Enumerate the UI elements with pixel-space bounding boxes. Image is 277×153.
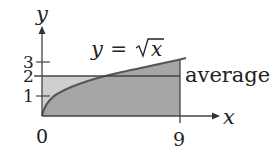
sqrt-average-chart: y x 3 2 1 0 9 y = x average [0,0,277,153]
function-label: y = x [90,37,164,61]
function-label-x: x [151,37,162,61]
function-label-y: y [90,37,104,61]
y-tick-label-2: 2 [23,66,34,86]
average-label: average [185,63,270,87]
x-tick-label-9: 9 [173,128,185,150]
function-label-equals: = [104,37,133,61]
x-axis-arrow-icon [212,113,220,120]
y-axis-label: y [35,2,49,26]
y-axis-arrow-icon [39,26,46,34]
x-axis-label: x [223,105,235,129]
x-tick-label-0: 0 [36,125,48,147]
y-tick-label-1: 1 [23,86,34,106]
